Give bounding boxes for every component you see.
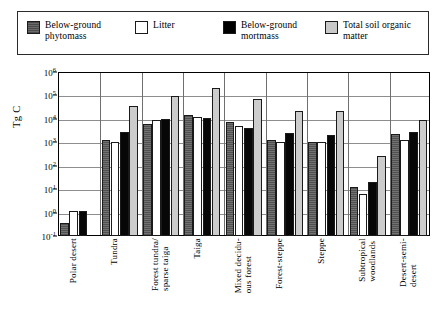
bar-litter <box>400 140 409 236</box>
chart-figure: Below-ground phytomass Litter Below-grou… <box>0 0 443 316</box>
x-axis-label: Steppe <box>316 238 326 264</box>
bar-total-soil-organic-matter <box>253 99 262 236</box>
bar-below-ground-mortmass <box>120 132 129 236</box>
x-axis-label: Desert-semi- desert <box>398 238 418 287</box>
x-axis-labels: Polar desertTundraForest tundra/ sparse … <box>58 238 430 314</box>
bar-below-ground-mortmass <box>409 132 418 236</box>
bar-litter <box>69 211 78 236</box>
bar-below-ground-mortmass <box>368 182 377 236</box>
bar-below-ground-mortmass <box>161 119 170 236</box>
bar-below-ground-phytomass <box>308 142 317 236</box>
bar-total-soil-organic-matter <box>212 88 221 236</box>
x-axis-label: Mixed decidu- ous forest <box>233 238 253 293</box>
bar-below-ground-mortmass <box>285 133 294 236</box>
bar-below-ground-phytomass <box>350 187 359 236</box>
x-axis-label: Taiga <box>192 238 202 259</box>
legend-label-litter: Litter <box>153 20 175 31</box>
chart-legend: Below-ground phytomass Litter Below-grou… <box>17 11 429 55</box>
bar-litter <box>359 194 368 236</box>
bar-below-ground-mortmass <box>203 118 212 236</box>
plot-area <box>58 72 430 236</box>
y-axis-title: Tg C <box>11 106 22 129</box>
bar-below-ground-phytomass <box>184 115 193 236</box>
y-tick-mark-3 <box>53 142 57 143</box>
x-axis-label: Tundra <box>109 238 119 265</box>
legend-swatch-litter-icon <box>135 21 148 34</box>
bar-below-ground-phytomass <box>226 122 235 236</box>
y-tick-mark-6 <box>53 72 57 73</box>
bar-total-soil-organic-matter <box>377 156 386 236</box>
legend-item-below-ground-phytomass: Below-ground phytomass <box>27 20 122 41</box>
legend-item-litter: Litter <box>135 20 205 34</box>
bar-below-ground-mortmass <box>327 135 336 236</box>
bar-litter <box>235 126 244 236</box>
x-axis-label: Forest-steppe <box>274 238 284 289</box>
bar-below-ground-phytomass <box>143 124 152 236</box>
bar-below-ground-mortmass <box>244 128 253 236</box>
bar-total-soil-organic-matter <box>336 111 345 236</box>
legend-item-below-ground-mortmass: Below-ground mortmass <box>223 20 318 41</box>
bar-litter <box>193 117 202 236</box>
y-tick-mark-5 <box>53 95 57 96</box>
y-tick-mark-0 <box>53 212 57 213</box>
x-axis-label: Polar desert <box>68 238 78 283</box>
y-tick-mark--1 <box>53 236 57 237</box>
x-axis-label: Subtropical woodlands <box>357 238 377 282</box>
bar-total-soil-organic-matter <box>171 96 180 236</box>
legend-item-total-soil-organic-matter: Total soil organic matter <box>325 20 425 41</box>
bar-litter <box>276 142 285 236</box>
legend-label-below-ground-phytomass: Below-ground phytomass <box>45 20 101 41</box>
bar-total-soil-organic-matter <box>419 120 428 236</box>
bar-below-ground-phytomass <box>60 223 69 236</box>
bar-litter <box>152 120 161 236</box>
bar-below-ground-phytomass <box>102 140 111 236</box>
legend-label-below-ground-mortmass: Below-ground mortmass <box>241 20 297 41</box>
y-tick-mark-1 <box>53 189 57 190</box>
bar-litter <box>111 142 120 236</box>
bar-below-ground-phytomass <box>391 134 400 236</box>
y-axis-ticks: 10610510410310210110010-1 <box>22 72 56 236</box>
bar-total-soil-organic-matter <box>295 111 304 236</box>
bar-below-ground-phytomass <box>267 140 276 236</box>
y-tick-mark-4 <box>53 118 57 119</box>
legend-swatch-below-ground-phytomass-icon <box>27 21 40 34</box>
x-axis-label: Forest tundra/ sparse taiga <box>150 238 170 291</box>
legend-swatch-below-ground-mortmass-icon <box>223 21 236 34</box>
legend-swatch-total-soil-organic-matter-icon <box>325 21 338 34</box>
legend-label-total-soil-organic-matter: Total soil organic matter <box>343 20 411 41</box>
bar-litter <box>317 142 326 236</box>
bars-layer <box>58 72 430 236</box>
bar-total-soil-organic-matter <box>129 106 138 236</box>
bar-below-ground-mortmass <box>79 211 88 236</box>
y-tick-mark-2 <box>53 165 57 166</box>
